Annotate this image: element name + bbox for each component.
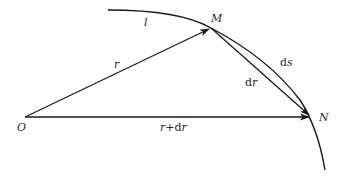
- label-rpdr-d: d: [174, 121, 181, 134]
- label-vector-dr: dr: [245, 76, 258, 89]
- curve-l: [108, 10, 325, 170]
- label-rpdr-plus: +: [165, 121, 174, 134]
- label-curve-l: l: [144, 16, 148, 29]
- label-point-O: O: [17, 121, 26, 134]
- vector-dr: [211, 28, 309, 115]
- label-vector-r-plus-dr: r+dr: [160, 121, 188, 134]
- label-ds-var: s: [287, 56, 293, 69]
- label-dr-var: r: [252, 76, 258, 89]
- vector-r: [25, 29, 209, 117]
- label-arc-ds: ds: [280, 56, 293, 69]
- label-point-N: N: [318, 111, 329, 124]
- diagram-canvas: l M O N r dr ds r+dr: [0, 0, 346, 180]
- label-ds-d: d: [280, 56, 287, 69]
- label-dr-d: d: [245, 76, 252, 89]
- label-rpdr-var: r: [182, 121, 188, 134]
- label-point-M: M: [210, 12, 223, 25]
- label-vector-r: r: [114, 58, 120, 71]
